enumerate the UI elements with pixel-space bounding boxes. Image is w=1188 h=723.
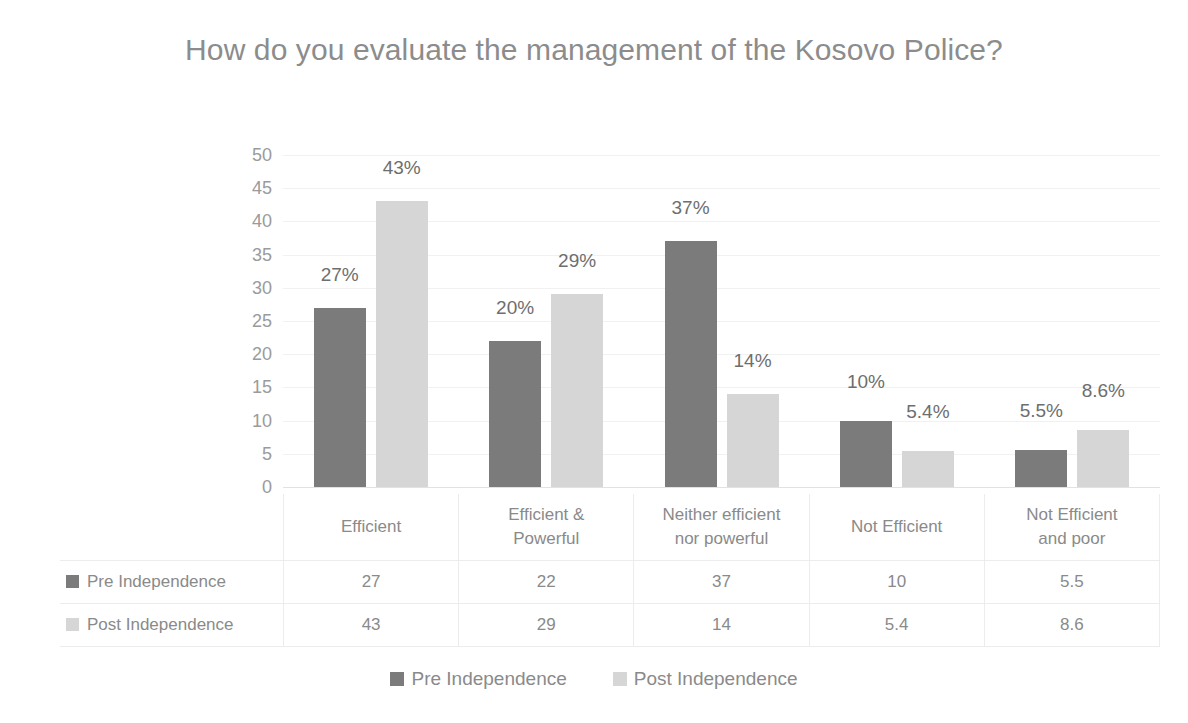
bar-pre[interactable] <box>840 421 892 487</box>
table-row: Post Independence4329145.48.6 <box>60 604 1160 647</box>
bar-value-label: 43% <box>357 158 447 177</box>
bar-value-label: 5.5% <box>996 401 1086 420</box>
bar-value-label: 5.4% <box>883 402 973 421</box>
category-label-cell: Neither efficientnor powerful <box>634 494 809 561</box>
y-axis-tick-label: 50 <box>212 146 272 164</box>
table-corner-cell <box>60 494 284 561</box>
y-axis-tick-label: 45 <box>212 179 272 197</box>
bar-post[interactable] <box>551 294 603 487</box>
category-header-row: EfficientEfficient &PowerfulNeither effi… <box>60 494 1160 561</box>
category-label-cell: Not Efficientand poor <box>984 494 1159 561</box>
category-label-cell: Efficient &Powerful <box>459 494 634 561</box>
bar-pre[interactable] <box>1015 450 1067 487</box>
y-axis: 50454035302520151050 <box>212 146 272 496</box>
table-value-cell: 5.4 <box>809 604 984 647</box>
y-axis-tick-label: 40 <box>212 212 272 230</box>
bar-post[interactable] <box>902 451 954 487</box>
bar-value-label: 8.6% <box>1058 381 1148 400</box>
axis-baseline <box>283 487 1160 488</box>
bar-pre[interactable] <box>489 341 541 487</box>
bar-group: 37%14% <box>634 155 809 487</box>
bar-post[interactable] <box>727 394 779 487</box>
data-table: EfficientEfficient &PowerfulNeither effi… <box>60 494 1160 647</box>
table-value-cell: 29 <box>459 604 634 647</box>
bar-value-label: 29% <box>532 251 622 270</box>
bar-value-label: 37% <box>646 198 736 217</box>
bar-value-label: 14% <box>708 351 798 370</box>
bar-post[interactable] <box>1077 430 1129 487</box>
category-label-cell: Efficient <box>284 494 459 561</box>
y-axis-tick-label: 30 <box>212 279 272 297</box>
category-label-cell: Not Efficient <box>809 494 984 561</box>
bar-value-label: 27% <box>295 265 385 284</box>
bar-group: 20%29% <box>458 155 633 487</box>
table-value-cell: 10 <box>809 561 984 604</box>
chart-title: How do you evaluate the management of th… <box>140 28 1048 72</box>
y-axis-tick-label: 25 <box>212 312 272 330</box>
bar-value-label: 10% <box>821 372 911 391</box>
y-axis-tick-label: 10 <box>212 412 272 430</box>
data-table-body: EfficientEfficient &PowerfulNeither effi… <box>60 494 1160 647</box>
bar-groups: 27%43%20%29%37%14%10%5.4%5.5%8.6% <box>283 155 1160 487</box>
table-row: Pre Independence272237105.5 <box>60 561 1160 604</box>
legend-item[interactable]: Post Independence <box>613 668 798 690</box>
y-axis-tick-label: 15 <box>212 378 272 396</box>
series-name-cell: Pre Independence <box>60 561 284 604</box>
legend-item[interactable]: Pre Independence <box>390 668 566 690</box>
table-value-cell: 5.5 <box>984 561 1159 604</box>
bar-pre[interactable] <box>314 308 366 487</box>
bar-group: 27%43% <box>283 155 458 487</box>
table-value-cell: 22 <box>459 561 634 604</box>
bar-value-label: 20% <box>470 298 560 317</box>
table-value-cell: 43 <box>284 604 459 647</box>
bar-group: 10%5.4% <box>809 155 984 487</box>
y-axis-tick-label: 5 <box>212 445 272 463</box>
legend-label: Post Independence <box>634 668 798 690</box>
y-axis-tick-label: 35 <box>212 246 272 264</box>
table-value-cell: 27 <box>284 561 459 604</box>
plot-area: 27%43%20%29%37%14%10%5.4%5.5%8.6% <box>283 155 1160 487</box>
table-value-cell: 37 <box>634 561 809 604</box>
y-axis-tick-label: 20 <box>212 345 272 363</box>
bar-group: 5.5%8.6% <box>985 155 1160 487</box>
plot-region: 50454035302520151050 27%43%20%29%37%14%1… <box>0 146 1188 496</box>
chart-legend: Pre IndependencePost Independence <box>0 668 1188 690</box>
legend-color-swatch-icon <box>613 672 627 686</box>
legend-label: Pre Independence <box>411 668 566 690</box>
table-value-cell: 14 <box>634 604 809 647</box>
series-name-label: Post Independence <box>87 615 234 634</box>
series-color-swatch-icon <box>66 618 79 631</box>
series-name-cell: Post Independence <box>60 604 284 647</box>
table-value-cell: 8.6 <box>984 604 1159 647</box>
series-color-swatch-icon <box>66 575 79 588</box>
bar-post[interactable] <box>376 201 428 487</box>
legend-color-swatch-icon <box>390 672 404 686</box>
series-name-label: Pre Independence <box>87 572 226 591</box>
